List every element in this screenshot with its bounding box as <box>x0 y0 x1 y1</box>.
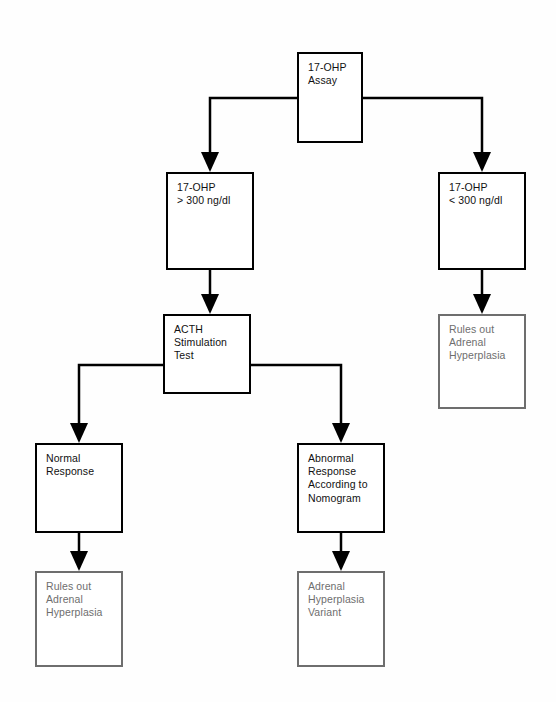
connector-assay-to-low <box>363 98 491 172</box>
connector-low-to-rulesout <box>473 270 491 314</box>
connector-normal-to-rulesout <box>70 533 88 571</box>
node-abnormal-response-label: Abnormal Response According to Nomogram <box>308 452 379 505</box>
node-ohp-assay[interactable]: 17-OHP Assay <box>297 52 363 143</box>
node-ohp-high-label: 17-OHP > 300 ng/dl <box>177 181 248 207</box>
node-rules-out-left-bottom-label: Rules out Adrenal Hyperplasia <box>46 580 117 620</box>
node-normal-response[interactable]: Normal Response <box>35 443 123 533</box>
node-rules-out-right-label: Rules out Adrenal Hyperplasia <box>449 323 520 363</box>
node-rules-out-right[interactable]: Rules out Adrenal Hyperplasia <box>438 314 526 409</box>
connector-acth-to-normal <box>70 365 163 443</box>
node-abnormal-response[interactable]: Abnormal Response According to Nomogram <box>297 443 385 533</box>
connector-assay-to-high <box>201 98 297 172</box>
connector-acth-to-abnormal <box>251 365 350 443</box>
node-acth-test-label: ACTH Stimulation Test <box>174 323 245 363</box>
node-ohp-assay-label: 17-OHP Assay <box>308 61 357 87</box>
node-adrenal-variant[interactable]: Adrenal Hyperplasia Variant <box>297 571 385 667</box>
node-ohp-low[interactable]: 17-OHP < 300 ng/dl <box>438 172 526 270</box>
node-normal-response-label: Normal Response <box>46 452 117 478</box>
node-rules-out-left-bottom[interactable]: Rules out Adrenal Hyperplasia <box>35 571 123 667</box>
flowchart-page: 17-OHP Assay 17-OHP > 300 ng/dl 17-OHP <… <box>0 0 556 702</box>
connector-high-to-acth <box>201 270 219 314</box>
node-adrenal-variant-label: Adrenal Hyperplasia Variant <box>308 580 379 620</box>
node-acth-test[interactable]: ACTH Stimulation Test <box>163 314 251 394</box>
node-ohp-high[interactable]: 17-OHP > 300 ng/dl <box>166 172 254 270</box>
node-ohp-low-label: 17-OHP < 300 ng/dl <box>449 181 520 207</box>
connector-abnormal-to-variant <box>332 533 350 571</box>
